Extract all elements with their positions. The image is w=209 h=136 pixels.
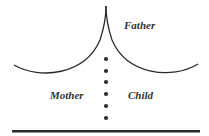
dotted-divider xyxy=(104,57,108,120)
base-line xyxy=(12,130,200,133)
father-label: Father xyxy=(124,19,155,31)
child-label: Child xyxy=(128,89,153,101)
diagram-canvas xyxy=(0,0,209,136)
left-curve xyxy=(14,6,106,73)
mother-label: Mother xyxy=(50,89,84,101)
right-curve xyxy=(106,6,198,73)
